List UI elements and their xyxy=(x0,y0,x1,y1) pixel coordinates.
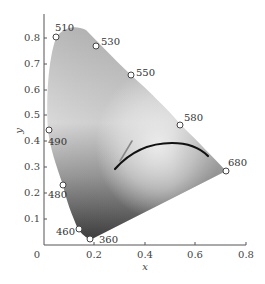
label-510: 510 xyxy=(55,22,74,33)
label-360: 360 xyxy=(99,234,118,245)
x-tick-labels: 0 0.2 0.4 0.6 0.8 xyxy=(34,249,254,260)
label-580: 580 xyxy=(184,112,203,123)
x-tick-0.6: 0.6 xyxy=(187,249,203,260)
y-tick-0.4: 0.4 xyxy=(24,135,40,146)
x-axis-title: x xyxy=(142,261,148,272)
marker-460 xyxy=(76,226,82,232)
y-tick-0.2: 0.2 xyxy=(24,187,40,198)
x-tick-0.8: 0.8 xyxy=(238,249,254,260)
chromaticity-diagram: 0.1 0.2 0.3 0.4 0.5 0.6 0.7 0.8 0 0.2 0.… xyxy=(0,0,265,284)
y-tick-0.8: 0.8 xyxy=(24,32,40,43)
label-490: 490 xyxy=(48,136,67,147)
x-tick-0.4: 0.4 xyxy=(137,249,153,260)
label-550: 550 xyxy=(136,67,155,78)
y-tick-0.7: 0.7 xyxy=(24,58,40,69)
marker-490 xyxy=(46,127,52,133)
label-460: 460 xyxy=(56,226,75,237)
marker-480 xyxy=(60,182,66,188)
y-axis-title: y xyxy=(13,128,24,135)
marker-580 xyxy=(177,122,183,128)
label-530: 530 xyxy=(101,36,120,47)
label-680: 680 xyxy=(228,157,247,168)
y-tick-0.3: 0.3 xyxy=(24,161,40,172)
y-tick-labels: 0.1 0.2 0.3 0.4 0.5 0.6 0.7 0.8 xyxy=(24,32,40,224)
spectral-locus-region xyxy=(47,27,226,240)
marker-550 xyxy=(128,72,134,78)
x-tick-0: 0 xyxy=(34,249,40,260)
marker-680 xyxy=(223,168,229,174)
label-480: 480 xyxy=(48,189,67,200)
y-tick-0.5: 0.5 xyxy=(24,109,40,120)
y-tick-0.1: 0.1 xyxy=(24,213,40,224)
marker-510 xyxy=(53,34,59,40)
marker-360 xyxy=(87,236,93,242)
marker-530 xyxy=(93,43,99,49)
x-tick-0.2: 0.2 xyxy=(86,249,102,260)
y-tick-0.6: 0.6 xyxy=(24,84,40,95)
